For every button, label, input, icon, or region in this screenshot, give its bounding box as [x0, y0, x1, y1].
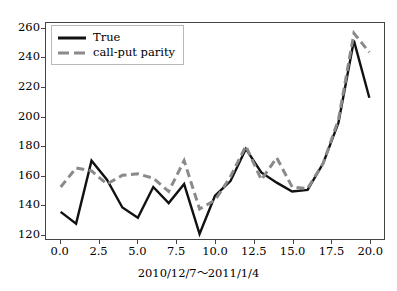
dashed-line-swatch: [57, 47, 87, 59]
y-tick-label: 160: [18, 170, 40, 182]
x-tick-label: 20.0: [357, 246, 383, 258]
x-tick-label: 5.0: [128, 246, 146, 258]
y-tick-label: 140: [18, 200, 40, 212]
x-axis-tick-labels: 0.02.55.07.510.012.515.017.520.0: [45, 246, 385, 262]
legend-item-true: True: [57, 30, 175, 45]
solid-line-swatch: [57, 32, 87, 44]
legend-label-true: True: [93, 32, 120, 44]
y-tick-label: 200: [18, 111, 40, 123]
chart-legend: True call-put parity: [51, 25, 184, 65]
x-tick-label: 10.0: [202, 246, 228, 258]
x-tick-label: 12.5: [241, 246, 267, 258]
y-tick-label: 220: [18, 81, 40, 93]
y-tick-label: 240: [18, 52, 40, 64]
x-tick-label: 17.5: [319, 246, 345, 258]
series-line-true: [61, 41, 370, 234]
y-tick-label: 260: [18, 22, 40, 34]
chart-figure: 120140160180200220240260 0.02.55.07.510.…: [0, 0, 397, 291]
x-tick-label: 15.0: [280, 246, 306, 258]
x-axis-label: 2010/12/7～2011/1/4: [0, 264, 397, 280]
x-tick-label: 7.5: [167, 246, 185, 258]
y-axis-tick-labels: 120140160180200220240260: [0, 22, 40, 240]
y-tick-label: 180: [18, 140, 40, 152]
legend-item-call-put-parity: call-put parity: [57, 45, 175, 60]
x-tick-label: 0.0: [51, 246, 69, 258]
legend-label-call-put-parity: call-put parity: [93, 47, 175, 59]
y-tick-label: 120: [18, 229, 40, 241]
x-tick-label: 2.5: [89, 246, 107, 258]
